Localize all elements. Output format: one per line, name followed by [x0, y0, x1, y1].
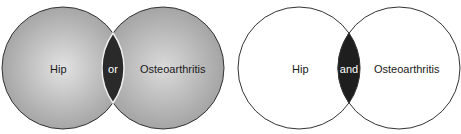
operator-label: or — [108, 63, 118, 75]
venn-diagrams: Hip or Osteoarthritis Hip and Osteoarthr… — [0, 0, 461, 134]
venn-intersection: Hip and Osteoarthritis — [238, 7, 460, 129]
hip-label: Hip — [292, 63, 309, 75]
osteoarthritis-label: Osteoarthritis — [374, 63, 440, 75]
osteoarthritis-label: Osteoarthritis — [140, 63, 206, 75]
hip-label: Hip — [50, 63, 67, 75]
venn-union: Hip or Osteoarthritis — [2, 7, 224, 129]
operator-label: and — [340, 63, 358, 75]
